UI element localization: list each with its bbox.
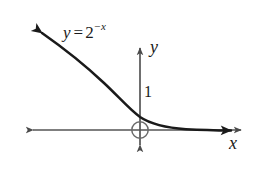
y-axis-label: y (150, 38, 158, 56)
exponential-graph-figure: y=2−x y x 1 (0, 0, 264, 169)
x-axis-label: x (229, 134, 237, 152)
equation-base: 2 (85, 23, 94, 42)
equation-variable: y (63, 23, 71, 42)
graph-canvas (0, 0, 264, 169)
equation-exponent: −x (94, 20, 106, 32)
curve-equation-label: y=2−x (63, 22, 106, 41)
equation-equals-sign: = (74, 23, 84, 42)
y-intercept-label: 1 (144, 84, 152, 100)
exponential-curve (42, 33, 231, 131)
